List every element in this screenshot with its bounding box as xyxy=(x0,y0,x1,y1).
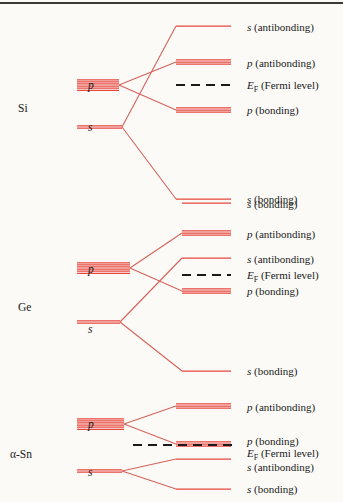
level-label-p-bonding: p (bonding) xyxy=(247,105,299,116)
level-label-symbol: s xyxy=(247,483,251,495)
connector-line xyxy=(119,62,176,85)
orbital-label-s: s xyxy=(88,122,92,134)
level-label-symbol: E xyxy=(247,269,254,281)
orbital-label-p: p xyxy=(88,264,94,276)
level-label-fermi: EF (Fermi level) xyxy=(247,270,319,284)
connector-line xyxy=(124,406,176,424)
level-label-s-bonding: s (bonding) xyxy=(247,366,297,377)
level-label-p-antibonding: p (antibonding) xyxy=(247,402,315,413)
level-label-s-antibonding: s (antibonding) xyxy=(247,22,314,33)
connector-line xyxy=(120,258,182,322)
connector-line xyxy=(122,471,176,489)
atomic-level-s xyxy=(77,321,120,323)
level-label-s-bonding: s (bonding) xyxy=(247,484,297,495)
level-label-subscript: F xyxy=(254,275,258,284)
connector-line xyxy=(130,268,182,291)
connector-line xyxy=(122,459,176,471)
level-label-s-antibonding: s (antibonding) xyxy=(247,254,314,265)
level-label-symbol: p xyxy=(247,435,253,447)
atomic-level-p xyxy=(77,80,119,91)
level-label-symbol: s xyxy=(247,461,251,473)
level-label-symbol: s xyxy=(247,253,251,265)
split-level-p-antibonding xyxy=(176,60,231,64)
connector-line xyxy=(124,424,176,444)
level-label-p-antibonding: p (antibonding) xyxy=(247,58,315,69)
level-label-p-antibonding: p (antibonding) xyxy=(247,229,315,240)
energy-level-diagram: Sipss (antibonding)p (antibonding)EF (Fe… xyxy=(0,0,343,502)
split-level-p-antibonding xyxy=(182,231,231,235)
level-label-s-antibonding: s (antibonding) xyxy=(247,462,314,473)
element-label-Si: Si xyxy=(18,103,28,115)
level-label-p-bonding: p (bonding) xyxy=(247,436,299,447)
orbital-label-p: p xyxy=(88,80,94,92)
element-label-α-Sn: α-Sn xyxy=(10,449,32,461)
atomic-level-s xyxy=(77,470,122,472)
element-group-α-Sn xyxy=(77,404,234,489)
atomic-level-s xyxy=(77,126,122,128)
level-label-symbol: p xyxy=(247,57,253,69)
element-group-Ge xyxy=(77,203,231,371)
level-label-fermi: EF (Fermi level) xyxy=(247,80,319,94)
level-label-p-bonding: p (bonding) xyxy=(247,286,299,297)
orbital-label-s: s xyxy=(88,324,92,336)
connector-line xyxy=(130,233,182,268)
connector-line xyxy=(122,127,176,199)
element-label-Ge: Ge xyxy=(18,302,31,314)
split-level-p-antibonding xyxy=(176,404,231,408)
atomic-level-p xyxy=(77,263,130,274)
connector-line xyxy=(122,26,176,127)
split-level-p-bonding xyxy=(176,108,231,112)
split-level-p-bonding xyxy=(182,289,231,293)
connector-line xyxy=(119,85,176,110)
orbital-label-s: s xyxy=(88,467,92,479)
level-label-symbol: p xyxy=(247,104,253,116)
level-label-symbol: p xyxy=(247,401,253,413)
level-label-symbol: E xyxy=(247,79,254,91)
orbital-label-p: p xyxy=(88,419,94,431)
level-label-subscript: F xyxy=(254,85,258,94)
level-label-symbol: E xyxy=(247,447,254,459)
element-group-Si xyxy=(77,26,231,199)
diagram-canvas xyxy=(0,0,343,502)
level-label-s-bonding-upper: s (bonding) xyxy=(247,199,297,210)
level-label-symbol: p xyxy=(247,228,253,240)
atomic-level-p xyxy=(77,419,124,430)
connector-line xyxy=(120,322,182,371)
level-label-symbol: s xyxy=(247,365,251,377)
level-label-symbol: s xyxy=(247,198,251,210)
level-label-symbol: p xyxy=(247,285,253,297)
level-label-symbol: s xyxy=(247,21,251,33)
